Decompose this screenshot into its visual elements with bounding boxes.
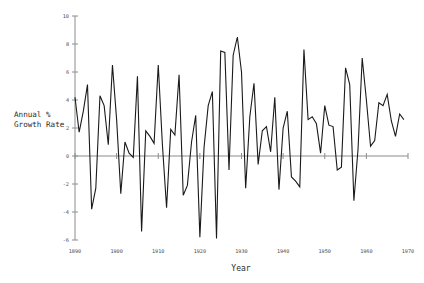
y-axis-tick-label: 2 [66, 125, 69, 131]
chart-figure: -6-4-20246810 18901900191019201930194019… [0, 0, 424, 283]
y-axis-tick-label: -4 [63, 209, 69, 215]
x-axis-tick-label: 1960 [360, 248, 373, 254]
y-axis-tick-label: 6 [66, 69, 69, 75]
x-axis-tick-label: 1890 [69, 248, 82, 254]
x-axis-tick-labels: 189019001910192019301940195019601970 [69, 248, 415, 254]
y-axis-title-line2: Growth Rate [14, 120, 65, 129]
y-axis-tick-label: -2 [63, 181, 69, 187]
x-axis-tick-label: 1950 [319, 248, 332, 254]
x-axis-tick-label: 1910 [152, 248, 165, 254]
line-chart-svg: -6-4-20246810 18901900191019201930194019… [0, 0, 424, 283]
y-axis-tick-label: 8 [66, 41, 69, 47]
x-axis-tick-label: 1970 [402, 248, 415, 254]
y-axis-tick-label: 10 [63, 13, 69, 19]
x-axis-title: Year [231, 264, 250, 273]
x-axis-tick-label: 1900 [110, 248, 123, 254]
x-axis-tick-label: 1920 [194, 248, 207, 254]
y-axis-title-line1: Annual % [14, 110, 51, 119]
y-axis-tick-label: -6 [63, 237, 69, 243]
y-axis-tick-label: 4 [66, 97, 69, 103]
y-axis-tick-label: 0 [66, 153, 69, 159]
x-axis-tick-label: 1940 [277, 248, 290, 254]
x-axis-tick-label: 1930 [235, 248, 248, 254]
